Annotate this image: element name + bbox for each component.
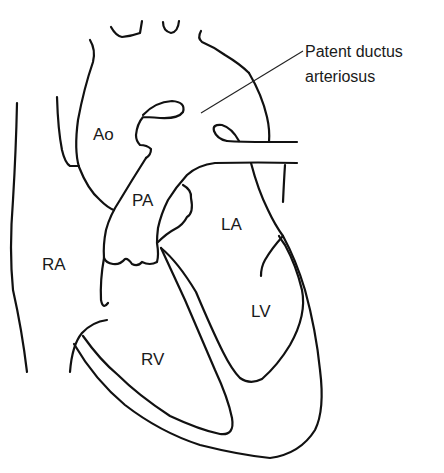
ductus-loop xyxy=(214,125,239,141)
callout-line-2: arteriosus xyxy=(305,68,375,85)
label-pulmonary-artery: PA xyxy=(132,191,154,210)
svc-ra-outer-wall xyxy=(11,103,27,372)
mitral-stub xyxy=(261,236,283,276)
label-left-ventricle: LV xyxy=(251,302,271,321)
arch-branch-vessels xyxy=(111,21,249,73)
label-left-atrium: LA xyxy=(221,215,242,234)
label-right-atrium: RA xyxy=(42,255,66,274)
heart-diagram: Ao PA LA RA LV RV Patent ductus arterios… xyxy=(0,0,444,473)
lv-inner-wall xyxy=(161,236,303,382)
label-aorta: Ao xyxy=(93,125,114,144)
label-right-ventricle: RV xyxy=(141,350,165,369)
ra-inner-wall xyxy=(101,258,108,306)
la-right-stub xyxy=(283,165,285,202)
callout-line-1: Patent ductus xyxy=(305,43,403,60)
descending-aorta-upper xyxy=(227,141,297,142)
rv-inner-wall xyxy=(83,248,233,434)
callout-leader-line xyxy=(201,51,303,113)
pa-curl xyxy=(136,101,184,158)
heart-outer-wall xyxy=(74,163,322,458)
aortic-arch xyxy=(249,73,269,142)
